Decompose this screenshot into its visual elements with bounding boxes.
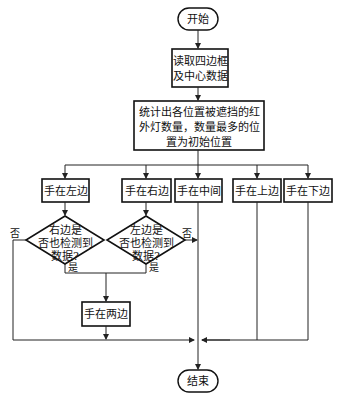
- hand-top-node: 手在上边: [233, 179, 281, 202]
- count-line-3: 置为初始位置: [166, 135, 232, 149]
- start-label: 开始: [187, 12, 209, 26]
- edge-bottom-bus: [202, 202, 308, 340]
- no-label-left: 否: [10, 228, 20, 239]
- hand-center-node: 手在中间: [175, 179, 222, 202]
- hand-top-label: 手在上边: [235, 184, 279, 198]
- edge-no-left: [13, 240, 26, 340]
- count-node: 统计出各位置被遮挡的红 外灯数量，数量最多的位 置为初始位置: [134, 101, 264, 150]
- end-node: 结束: [178, 370, 218, 392]
- read-line-2: 及中心数据: [173, 69, 228, 83]
- hand-left-label: 手在左边: [44, 184, 88, 198]
- decision-left-detected: 左边是 否也检测到 数据?: [107, 216, 185, 264]
- hand-left-node: 手在左边: [42, 179, 89, 202]
- hand-both-label: 手在两边: [84, 307, 128, 321]
- flowchart: 开始 读取四边框 及中心数据 统计出各位置被遮挡的红 外灯数量，数量最多的位 置…: [0, 0, 343, 403]
- no-label-right: 否: [182, 228, 192, 239]
- decision-right-line-2: 否也检测到: [38, 236, 93, 250]
- read-data-node: 读取四边框 及中心数据: [172, 49, 228, 87]
- yes-label-left: 是: [68, 262, 78, 273]
- count-line-2: 外灯数量，数量最多的位: [139, 120, 260, 134]
- yes-label-right: 是: [149, 262, 159, 273]
- hand-right-node: 手在右边: [122, 179, 171, 202]
- decision-right-line-3: 数据?: [51, 249, 79, 263]
- hand-bottom-label: 手在下边: [286, 184, 330, 198]
- hand-right-label: 手在右边: [125, 184, 169, 198]
- decision-right-detected: 右边是 否也检测到 数据?: [26, 216, 104, 264]
- decision-left-line-3: 数据?: [132, 249, 160, 263]
- decision-left-line-1: 左边是: [130, 224, 163, 237]
- hand-bottom-node: 手在下边: [284, 179, 332, 202]
- decision-right-line-1: 右边是: [49, 223, 82, 237]
- end-label: 结束: [187, 375, 209, 388]
- start-node: 开始: [178, 8, 218, 30]
- decision-left-line-2: 否也检测到: [119, 236, 174, 250]
- hand-center-label: 手在中间: [177, 184, 221, 198]
- hand-both-node: 手在两边: [82, 302, 130, 326]
- count-line-1: 统计出各位置被遮挡的红: [139, 105, 260, 119]
- read-line-1: 读取四边框: [173, 54, 228, 68]
